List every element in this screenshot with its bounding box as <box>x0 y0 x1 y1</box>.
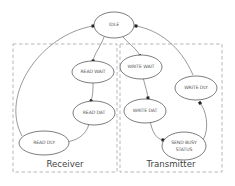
node-write-wait: WRITE WAIT <box>120 55 162 79</box>
edge-write-dat-to-send-busy-status <box>150 120 163 140</box>
node-read-dat: READ DAT <box>73 101 115 125</box>
edge-write-wait-to-write-dat <box>143 77 148 98</box>
node-write-dat: WRITE DAT <box>124 99 166 123</box>
node-read-dat-label: READ DAT <box>83 110 106 115</box>
edge-send-busy-status-to-write-dly <box>200 103 207 140</box>
node-read-dly-label: READ DLY <box>33 140 55 145</box>
node-write-dly-label: WRITE DLY <box>184 85 208 90</box>
state-diagram: IDLE READ WAIT READ DAT READ DLY WRITE W… <box>0 0 235 186</box>
edge-idle-to-read-wait <box>93 37 104 61</box>
edge-idle-to-write-wait <box>123 37 140 56</box>
node-send-busy-status: SEND BUSY STATUS <box>162 132 206 160</box>
node-write-dly: WRITE DLY <box>175 76 217 100</box>
node-send-busy-status-label-line2: STATUS <box>176 147 193 152</box>
transmitter-label: Transmitter <box>145 159 195 169</box>
node-write-wait-label: WRITE WAIT <box>128 64 155 69</box>
node-write-dat-label: WRITE DAT <box>133 108 158 113</box>
node-read-dly: READ DLY <box>19 131 69 155</box>
edge-read-wait-to-read-dat <box>91 83 93 101</box>
node-read-wait: READ WAIT <box>72 61 114 83</box>
node-read-wait-label: READ WAIT <box>81 69 106 74</box>
receiver-label: Receiver <box>46 159 84 169</box>
node-send-busy-status-label-line1: SEND BUSY <box>171 140 197 145</box>
edge-read-dat-to-read-dly <box>66 124 89 142</box>
node-idle-label: IDLE <box>109 22 119 27</box>
node-idle: IDLE <box>94 12 134 38</box>
